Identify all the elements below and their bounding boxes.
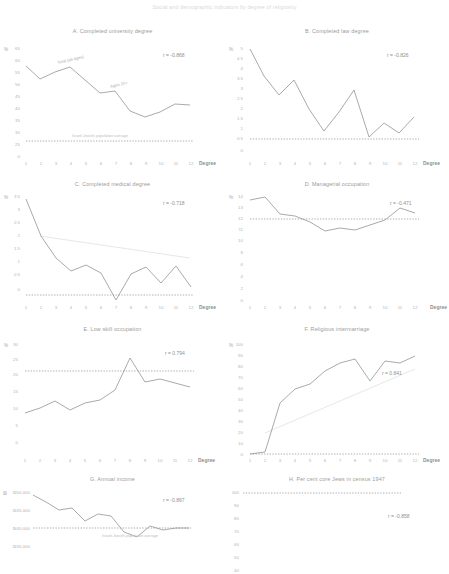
x-tick: 1 — [25, 161, 27, 166]
panel-b: B. Completed law degree % r = -0.826 5 4… — [225, 14, 449, 170]
y-tick: 14 — [227, 194, 243, 199]
y-tick: 50 — [225, 555, 239, 560]
panel-a-title: A. Completed university degree — [0, 28, 225, 34]
y-tick: 1.5 — [227, 116, 243, 121]
y-tick: 5 — [2, 423, 18, 428]
x-tick: 1 — [249, 305, 251, 310]
panel-h-title: H. Per cent core Jews in census 1947 — [225, 476, 449, 482]
x-tick: 5 — [309, 305, 311, 310]
y-tick: 50 — [2, 82, 20, 87]
x-tick: 1 — [249, 458, 251, 463]
y-tick: 0 — [2, 440, 18, 445]
panel-e-plot — [22, 341, 212, 457]
y-tick: 11 — [227, 227, 243, 232]
y-tick: 40 — [227, 408, 243, 413]
panel-c-title: C. Completed medical degree — [0, 181, 225, 187]
panel-c-xaxis-title: Degree — [199, 304, 216, 310]
x-tick: 11 — [173, 458, 178, 463]
x-tick: 4 — [69, 458, 71, 463]
x-tick: 7 — [339, 305, 341, 310]
x-tick: 4 — [294, 161, 296, 166]
y-tick: 0.5 — [2, 272, 20, 277]
panel-f-plot — [247, 341, 437, 461]
x-tick: 1 — [24, 458, 26, 463]
x-tick: 9 — [145, 161, 147, 166]
x-tick: 2 — [40, 161, 42, 166]
panel-f-xaxis-title: Degree — [423, 457, 440, 463]
x-tick: 7 — [114, 458, 116, 463]
y-tick: 0 — [2, 287, 20, 292]
x-tick: 10 — [159, 161, 164, 166]
y-tick: 13 — [227, 205, 243, 210]
x-tick: 6 — [100, 161, 102, 166]
y-tick: 25 — [2, 357, 18, 362]
panel-g-reference-label: Israeli Jewish population average — [102, 534, 158, 538]
y-tick: ₪35,000 — [6, 544, 30, 549]
x-tick: 9 — [145, 305, 147, 310]
y-tick: 70 — [225, 529, 239, 534]
y-tick: 10 — [227, 238, 243, 243]
x-tick: 8 — [129, 458, 131, 463]
y-tick: 3 — [2, 207, 20, 212]
y-tick: 60 — [227, 386, 243, 391]
x-tick: 9 — [369, 161, 371, 166]
x-tick: 2 — [264, 305, 266, 310]
y-tick: 8 — [227, 250, 243, 255]
panel-a: A. Completed university degree % r = -0.… — [0, 14, 225, 170]
y-tick: 65 — [2, 46, 20, 51]
y-tick: ₪45,000 — [6, 508, 30, 513]
x-tick: 10 — [383, 161, 388, 166]
panel-d-plot — [247, 192, 437, 304]
y-tick: 2 — [227, 106, 243, 111]
x-tick: 8 — [354, 161, 356, 166]
y-tick: 1.5 — [2, 246, 20, 251]
y-tick: 5 — [227, 46, 243, 51]
x-tick: 7 — [115, 161, 117, 166]
panel-a-xaxis-title: Degree — [199, 160, 216, 166]
x-tick: 3 — [279, 161, 281, 166]
y-tick: ₪40,000 — [6, 526, 30, 531]
panel-e-title: E. Low skill occupation — [0, 326, 225, 332]
x-tick: 9 — [369, 458, 371, 463]
x-tick: 8 — [354, 458, 356, 463]
y-tick: 1 — [2, 259, 20, 264]
y-tick: 100 — [227, 342, 243, 347]
x-tick: 2 — [264, 458, 266, 463]
x-tick: 6 — [324, 458, 326, 463]
panel-b-xaxis-title: Degree — [423, 160, 440, 166]
y-tick: 3 — [227, 86, 243, 91]
panel-g-plot — [31, 489, 211, 559]
x-tick: 4 — [70, 161, 72, 166]
y-tick: 25 — [2, 142, 20, 147]
y-tick: 90 — [225, 503, 239, 508]
y-tick: 2.5 — [227, 96, 243, 101]
x-tick: 12 — [413, 161, 418, 166]
x-tick: 6 — [324, 305, 326, 310]
x-tick: 3 — [55, 305, 57, 310]
x-tick: 5 — [309, 458, 311, 463]
x-tick: 10 — [159, 305, 164, 310]
x-tick: 11 — [398, 458, 403, 463]
y-tick: 60 — [2, 58, 20, 63]
y-tick: 10 — [2, 406, 18, 411]
y-tick: 35 — [2, 118, 20, 123]
x-tick: 4 — [294, 305, 296, 310]
y-tick: 30 — [227, 419, 243, 424]
x-tick: 1 — [249, 161, 251, 166]
y-tick: 6 — [227, 262, 243, 267]
panel-grid: A. Completed university degree % r = -0.… — [0, 14, 449, 571]
panel-c: C. Completed medical degree % r = -0.718… — [0, 170, 225, 315]
y-tick: 45 — [2, 94, 20, 99]
x-tick: 10 — [158, 458, 163, 463]
x-tick: 3 — [279, 305, 281, 310]
x-tick: 7 — [339, 161, 341, 166]
panel-b-title: B. Completed law degree — [225, 28, 449, 34]
y-tick: 3.5 — [2, 194, 20, 199]
y-tick: 40 — [225, 568, 239, 573]
y-tick: 70 — [227, 375, 243, 380]
panel-g: G. Annual income ₪ r = -0.867 ₪50,000 ₪4… — [0, 465, 225, 571]
x-tick: 11 — [174, 305, 179, 310]
x-tick: 12 — [189, 161, 194, 166]
x-tick: 12 — [189, 305, 194, 310]
